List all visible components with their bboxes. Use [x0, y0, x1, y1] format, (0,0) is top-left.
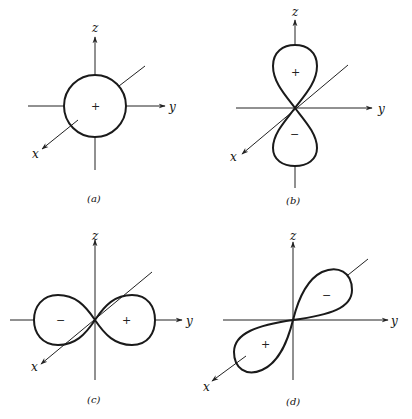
- y-label: y: [168, 100, 176, 114]
- x-label: x: [203, 380, 210, 394]
- sign-plus: +: [261, 338, 270, 351]
- panel-a: z y x + (a): [28, 21, 176, 204]
- sign-minus: −: [56, 314, 65, 327]
- x-label: x: [230, 150, 237, 164]
- z-label: z: [291, 5, 299, 19]
- orbital-figure: z y x + (a) z y x + − (b) z y x − + (c): [0, 0, 412, 419]
- sign-plus: +: [291, 66, 300, 79]
- sign-minus: −: [290, 128, 299, 141]
- x-axis-back: [119, 66, 145, 86]
- panel-d: z y x − + (d): [203, 229, 398, 407]
- panel-b: z y x + − (b): [230, 5, 385, 206]
- y-label: y: [185, 314, 193, 328]
- x-axis-back: [348, 259, 368, 275]
- sign-minus: −: [322, 289, 331, 302]
- x-label: x: [31, 360, 38, 374]
- z-label: z: [91, 21, 99, 35]
- x-label: x: [32, 147, 39, 161]
- caption-d: (d): [286, 396, 300, 407]
- y-label: y: [377, 102, 385, 116]
- panel-c: z y x − + (c): [10, 229, 193, 405]
- caption-c: (c): [87, 394, 101, 405]
- caption-a: (a): [87, 193, 101, 204]
- caption-b: (b): [286, 195, 300, 206]
- y-label: y: [390, 314, 398, 328]
- z-label: z: [91, 229, 99, 243]
- sign-plus: +: [91, 100, 100, 113]
- z-label: z: [289, 229, 297, 243]
- sign-plus: +: [122, 314, 131, 327]
- x-axis: [42, 120, 78, 149]
